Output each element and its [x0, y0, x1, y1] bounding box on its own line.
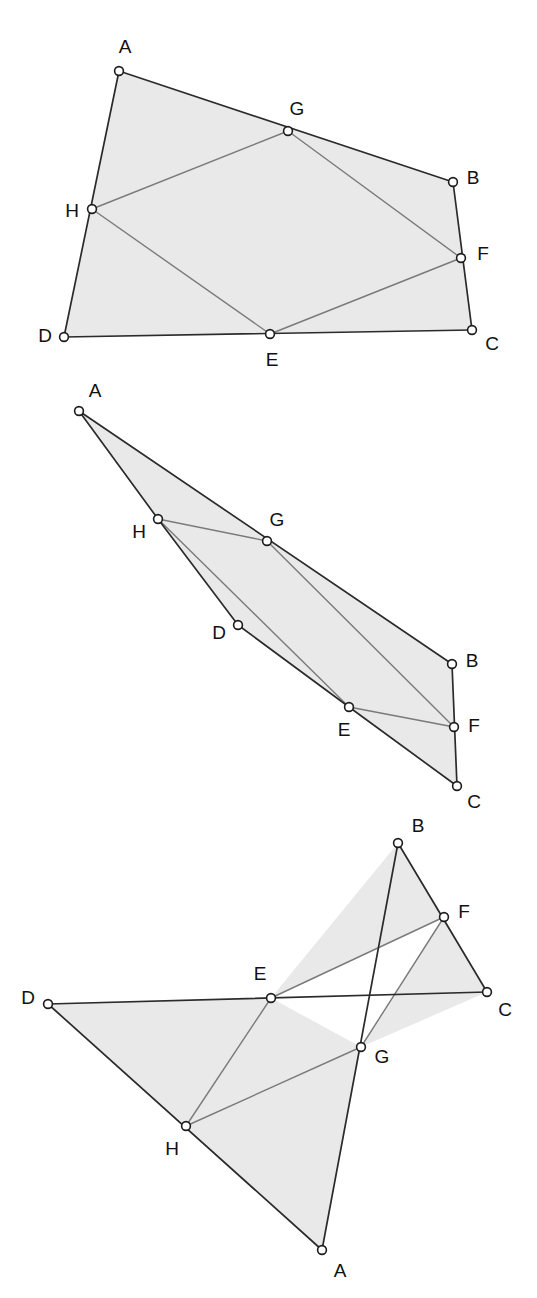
- vertex-label-F: F: [477, 243, 489, 264]
- vertex-point-D[interactable]: [44, 1000, 53, 1009]
- crossed-quadrilateral-case: ABCDEFGH: [21, 815, 512, 1281]
- vertex-label-E: E: [338, 719, 351, 740]
- vertex-label-D: D: [212, 622, 226, 643]
- vertex-label-E: E: [266, 349, 279, 370]
- vertex-point-B[interactable]: [448, 660, 457, 669]
- vertex-label-C: C: [467, 791, 481, 812]
- vertex-label-A: A: [119, 36, 132, 57]
- vertex-label-C: C: [498, 999, 512, 1020]
- vertex-label-A: A: [334, 1260, 347, 1281]
- vertex-point-D[interactable]: [234, 621, 243, 630]
- vertex-label-D: D: [38, 325, 52, 346]
- vertex-label-B: B: [412, 815, 425, 836]
- vertex-label-E: E: [254, 963, 267, 984]
- vertex-point-G[interactable]: [284, 127, 293, 136]
- vertex-point-H[interactable]: [182, 1122, 191, 1131]
- vertex-label-H: H: [132, 521, 146, 542]
- vertex-label-B: B: [467, 167, 480, 188]
- vertex-point-B[interactable]: [449, 178, 458, 187]
- vertex-point-B[interactable]: [394, 839, 403, 848]
- vertex-label-G: G: [290, 98, 305, 119]
- vertex-label-C: C: [485, 333, 499, 354]
- vertex-point-A[interactable]: [75, 407, 84, 416]
- vertex-point-E[interactable]: [267, 994, 276, 1003]
- vertex-point-E[interactable]: [266, 330, 275, 339]
- vertex-point-F[interactable]: [457, 254, 466, 263]
- geometry-figure-container: ABCDEFGHABCDEFGHABCDEFGH: [0, 0, 537, 1298]
- vertex-point-C[interactable]: [468, 326, 477, 335]
- geometry-figure-svg: ABCDEFGHABCDEFGHABCDEFGH: [0, 0, 537, 1298]
- vertex-point-A[interactable]: [318, 1246, 327, 1255]
- vertex-label-B: B: [466, 650, 479, 671]
- vertex-label-H: H: [65, 200, 79, 221]
- vertex-point-C[interactable]: [483, 988, 492, 997]
- vertex-point-F[interactable]: [450, 723, 459, 732]
- vertex-point-E[interactable]: [345, 703, 354, 712]
- vertex-point-G[interactable]: [357, 1043, 366, 1052]
- shaded-region: [64, 71, 472, 337]
- convex-quadrilateral-case: ABCDEFGH: [38, 36, 499, 370]
- vertex-label-F: F: [458, 901, 470, 922]
- vertex-point-H[interactable]: [88, 205, 97, 214]
- vertex-label-H: H: [165, 1138, 179, 1159]
- vertex-point-G[interactable]: [263, 537, 272, 546]
- vertex-point-D[interactable]: [60, 333, 69, 342]
- vertex-label-G: G: [375, 1046, 390, 1067]
- vertex-point-H[interactable]: [154, 515, 163, 524]
- vertex-label-G: G: [270, 509, 285, 530]
- vertex-point-A[interactable]: [115, 67, 124, 76]
- vertex-label-A: A: [89, 380, 102, 401]
- vertex-label-F: F: [468, 715, 480, 736]
- shaded-region: [79, 411, 457, 786]
- vertex-point-C[interactable]: [453, 782, 462, 791]
- vertex-label-D: D: [21, 987, 35, 1008]
- vertex-point-F[interactable]: [440, 913, 449, 922]
- degenerate-thin-quadrilateral-case: ABCDEFGH: [75, 380, 481, 812]
